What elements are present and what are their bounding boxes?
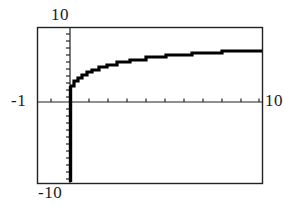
axis-label-y-max: 10 [51,6,69,23]
plot-screenshot: 10 -10 -1 10 [0,0,284,207]
axis-label-y-min: -10 [38,184,62,201]
curve-log [70,51,262,86]
plot-canvas [0,0,284,207]
axis-label-x-max: 10 [265,92,283,109]
axis-label-x-min: -1 [11,92,26,109]
